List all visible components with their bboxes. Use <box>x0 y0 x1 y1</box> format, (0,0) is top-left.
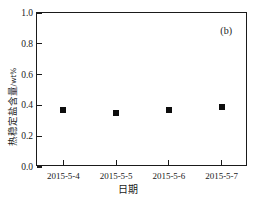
y-axis-title: 热稳定盐含量/wt% <box>5 37 19 177</box>
y-axis-tick <box>37 105 42 106</box>
plot-area: (b) 0.00.20.40.60.81.02015-5-42015-5-520… <box>36 12 247 166</box>
x-axis-tick-label: 2015-5-6 <box>152 171 185 181</box>
y-axis-title-text: 热稳定盐含量 <box>7 86 18 146</box>
y-axis-tick <box>37 166 42 167</box>
y-axis-tick-label: 1.0 <box>3 8 33 18</box>
chart-figure: (b) 0.00.20.40.60.81.02015-5-42015-5-520… <box>0 0 255 199</box>
y-axis-tick <box>37 43 42 44</box>
x-axis-tick-label: 2015-5-7 <box>205 171 238 181</box>
x-axis-tick <box>63 160 64 165</box>
y-axis-tick <box>37 74 42 75</box>
data-point <box>113 110 119 116</box>
data-point <box>219 104 225 110</box>
y-axis-tick <box>37 136 42 137</box>
x-axis-tick-label: 2015-5-5 <box>100 171 133 181</box>
x-axis-tick <box>221 160 222 165</box>
y-axis-unit: /wt% <box>9 67 18 86</box>
y-axis-tick <box>37 12 42 13</box>
x-axis-title: 日期 <box>0 181 255 196</box>
data-point <box>60 107 66 113</box>
panel-label: (b) <box>220 25 232 36</box>
x-axis-tick <box>116 160 117 165</box>
x-axis-tick <box>168 160 169 165</box>
data-point <box>166 107 172 113</box>
x-axis-tick-label: 2015-5-4 <box>47 171 80 181</box>
